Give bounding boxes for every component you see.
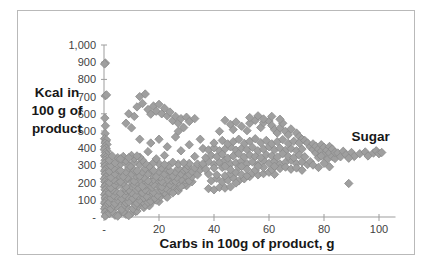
data-point-diamond [345,179,353,187]
data-point-diamond [191,152,199,160]
data-point-diamond [163,143,171,151]
sugar-annotation: Sugar [352,129,391,144]
x-tick-label: 100 [370,223,388,235]
y-tick-label: 400 [78,142,96,154]
y-tick-label: 1,000 [68,39,96,51]
x-tick-label: 40 [208,223,220,235]
data-point-diamond [160,151,168,159]
chart-canvas: -1002003004005006007008009001,000-204060… [0,0,431,272]
y-tick-label: 300 [78,159,96,171]
data-points [100,59,386,220]
data-point-diamond [101,114,109,122]
x-axis-title: Carbs in 100g of product, g [97,236,397,251]
x-tick-label: 20 [153,223,165,235]
y-tick-label: - [92,211,96,223]
y-axis-title-line-1: Kcal in [24,84,90,102]
x-tick-label: 60 [263,223,275,235]
data-point-diamond [177,147,185,155]
data-point-diamond [196,135,204,143]
y-tick-label: 200 [78,177,96,189]
y-axis-title: Kcal in 100 g of product [24,84,90,138]
y-tick-label: 100 [78,194,96,206]
data-point-diamond [155,135,163,143]
data-point-diamond [136,135,144,143]
x-tick-label: - [102,223,106,235]
data-point-diamond [101,122,109,130]
y-axis-title-line-3: product [24,120,90,138]
data-point-diamond [144,147,152,155]
data-point-diamond [210,139,218,147]
data-point-diamond [215,127,223,135]
data-point-diamond [185,141,193,149]
y-tick-label: 900 [78,56,96,68]
x-tick-label: 80 [318,223,330,235]
data-point-diamond [147,139,155,147]
y-axis-title-line-2: 100 g of [24,102,90,120]
